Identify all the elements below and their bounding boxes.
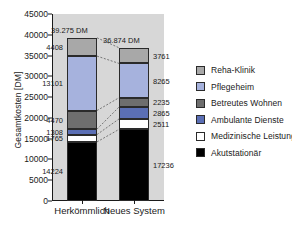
legend-item[interactable]: Pflegeheim (196, 79, 292, 96)
legend-item-label: Akutstationär (211, 148, 261, 158)
bar-total-label: 36.874 DM (103, 36, 140, 45)
legend-color-swatch (196, 132, 205, 141)
segment-value-label: 4470 (33, 115, 63, 124)
bar-segment (119, 107, 149, 119)
bar-segment (67, 38, 97, 56)
chart-legend: Reha-KlinikPflegeheimBetreutes WohnenAmb… (196, 62, 292, 161)
bar-segment (119, 48, 149, 64)
x-axis-tick-mark (134, 200, 135, 204)
chart-figure: Gesamtkosten [DM] 0500010000150002000025… (0, 0, 292, 230)
legend-item-label: Medizinische Leistung (211, 131, 292, 141)
legend-item-label: Ambulante Dienste (211, 115, 284, 125)
legend-item[interactable]: Reha-Klinik (196, 62, 292, 79)
stacked-bar (67, 14, 97, 201)
segment-value-label: 17236 (153, 161, 187, 170)
y-axis-tick-label: 40000 (4, 30, 48, 40)
y-axis-tick-label: 35000 (4, 51, 48, 61)
segment-value-label: 4408 (33, 42, 63, 51)
y-axis-tick-label: 45000 (4, 9, 48, 19)
segment-value-label: 2235 (153, 98, 187, 107)
segment-value-label: 14224 (33, 167, 63, 176)
legend-item[interactable]: Betreutes Wohnen (196, 95, 292, 112)
legend-color-swatch (196, 66, 205, 75)
x-axis-category-label: Neues System (98, 205, 170, 216)
y-axis-tick-label: 5000 (4, 175, 48, 185)
legend-item-label: Betreutes Wohnen (211, 98, 282, 108)
legend-item-label: Pflegeheim (211, 82, 254, 92)
y-axis-tick-label: 25000 (4, 92, 48, 102)
bar-segment (119, 119, 149, 129)
bar-segment (67, 135, 97, 142)
bar-segment (67, 142, 97, 201)
x-axis-tick-mark (82, 200, 83, 204)
bar-segment (67, 56, 97, 110)
bar-segment (119, 129, 149, 201)
segment-value-label: 8265 (153, 76, 187, 85)
bar-segment (119, 63, 149, 97)
segment-value-label: 2865 (153, 108, 187, 117)
legend-color-swatch (196, 148, 205, 157)
bar-total-label: 39.275 DM (51, 26, 88, 35)
legend-item-label: Reha-Klinik (211, 65, 255, 75)
y-axis-tick-label: 10000 (4, 154, 48, 164)
segment-value-label: 13101 (33, 79, 63, 88)
y-axis-tick-label: 0 (4, 196, 48, 206)
legend-item[interactable]: Akutstationär (196, 145, 292, 162)
legend-item[interactable]: Medizinische Leistung (196, 128, 292, 145)
legend-color-swatch (196, 82, 205, 91)
segment-value-label: 2511 (153, 120, 187, 129)
legend-color-swatch (196, 99, 205, 108)
legend-item[interactable]: Ambulante Dienste (196, 112, 292, 129)
segment-value-label: 1765 (33, 134, 63, 143)
legend-color-swatch (196, 115, 205, 124)
bar-segment (67, 111, 97, 130)
bar-segment (119, 98, 149, 107)
segment-value-label: 3761 (153, 51, 187, 60)
